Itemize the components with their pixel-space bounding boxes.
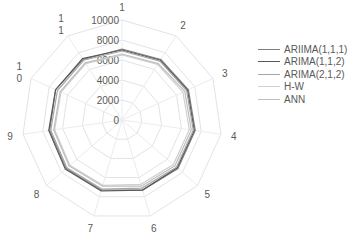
legend-item: ARIIMA(1,1,1) [258, 43, 347, 56]
category-label: 1 [58, 25, 64, 36]
legend-swatch [258, 99, 280, 100]
category-label: 1 [119, 2, 125, 13]
legend-label: ARIMA(2,1,2) [284, 69, 345, 80]
tick-label: 10000 [91, 15, 119, 26]
legend-label: ANN [284, 94, 305, 105]
category-label: 2 [180, 20, 186, 31]
legend-swatch [258, 74, 280, 75]
legend-label: H-W [284, 81, 304, 92]
tick-label: 2000 [97, 95, 120, 106]
legend-item: H-W [258, 81, 347, 94]
category-label: 0 [16, 73, 22, 84]
category-label: 7 [87, 223, 93, 233]
legend-swatch [258, 86, 280, 87]
legend-item: ARIMA(1,1,2) [258, 56, 347, 69]
tick-label: 4000 [97, 75, 120, 86]
radar-chart: 0200040006000800010000 1234567891011 [0, 0, 361, 233]
category-label: 8 [34, 189, 40, 200]
category-label: 1 [58, 13, 64, 24]
legend-swatch [258, 61, 280, 62]
chart-legend: ARIIMA(1,1,1) ARIMA(1,1,2) ARIMA(2,1,2) … [258, 43, 347, 106]
category-label: 5 [205, 189, 211, 200]
legend-swatch [258, 49, 280, 50]
category-label: 1 [16, 61, 22, 72]
legend-item: ARIMA(2,1,2) [258, 68, 347, 81]
category-label: 6 [151, 223, 157, 233]
legend-label: ARIMA(1,1,2) [284, 56, 345, 67]
legend-item: ANN [258, 93, 347, 106]
tick-label: 0 [113, 115, 119, 126]
grid-spoke [94, 120, 122, 216]
category-label: 4 [231, 131, 237, 142]
category-label: 3 [222, 68, 228, 79]
category-label: 9 [7, 131, 13, 142]
legend-label: ARIIMA(1,1,1) [284, 44, 347, 55]
grid-spoke [23, 120, 122, 134]
tick-label: 8000 [97, 35, 120, 46]
grid-spoke [122, 120, 150, 216]
grid-spoke [122, 120, 221, 134]
